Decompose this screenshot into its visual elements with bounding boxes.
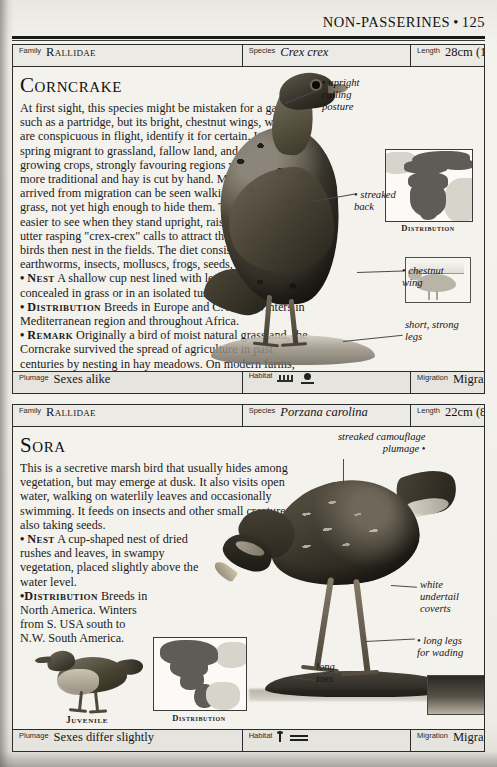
running-head-separator: • <box>453 14 459 30</box>
species-entry-corncrake: Family Rallidae Species Crex crex Length… <box>12 44 485 392</box>
fact-keyword: Remark <box>27 328 73 342</box>
bird-eye <box>312 81 320 89</box>
thumbnail-bird-leg-a <box>428 291 430 300</box>
migration-value: Migrant <box>453 730 484 745</box>
juvenile-leg-left <box>78 691 83 711</box>
plumage-value: Sexes alike <box>54 372 111 387</box>
entry-body-corncrake: Distribution • upright calling posture •… <box>12 67 485 371</box>
distribution-map-caption-sora: Distribution <box>153 713 245 723</box>
species-entry-sora: Family Rallidae Species Porzana carolina… <box>12 404 485 750</box>
fact-keyword: Nest <box>27 271 54 285</box>
family-label: Family <box>19 46 41 55</box>
distribution-map-sora <box>153 637 247 711</box>
entry-header-band-sora: Family Rallidae Species Porzana carolina… <box>12 404 485 427</box>
species-value: Crex crex <box>280 45 328 60</box>
habitat-cell: Habitat <box>243 372 411 393</box>
running-head: NON-PASSERINES•125 <box>0 14 485 31</box>
annotation-streaked-back: • streaked back <box>354 189 396 213</box>
juvenile-caption: Juvenile <box>31 715 143 725</box>
fact-keyword: Distribution <box>27 300 101 314</box>
plumage-value: Sexes differ slightly <box>54 730 154 745</box>
field-guide-page: NON-PASSERINES•125 Family Rallidae Speci… <box>0 0 497 767</box>
habitat-icon-group <box>277 731 308 742</box>
juvenile-illustration <box>31 641 143 717</box>
species-label: Species <box>249 406 276 415</box>
habitat-icon-group <box>277 373 314 384</box>
plumage-label: Plumage <box>19 731 49 740</box>
leader-line-streaked-plumage <box>343 459 344 485</box>
annotation-white-undertail-coverts: white undertail coverts <box>420 579 459 615</box>
species-value: Porzana carolina <box>280 405 367 420</box>
running-head-rule-thin <box>12 40 485 41</box>
water-icon <box>290 732 308 741</box>
page-number: 125 <box>462 14 485 30</box>
species-cell: Species Crex crex <box>243 45 411 66</box>
running-head-rule <box>12 36 485 39</box>
fact-keyword: Nest <box>27 532 54 546</box>
migration-cell: Migration Migrant <box>411 730 484 751</box>
plumage-label: Plumage <box>19 373 49 382</box>
species-label: Species <box>249 46 276 55</box>
tree-icon <box>300 373 314 384</box>
habitat-cell: Habitat <box>243 730 411 751</box>
plumage-cell: Plumage Sexes alike <box>13 372 243 393</box>
annotation-long-toes: long toes <box>316 661 335 685</box>
map-landmass-light-se <box>444 178 473 222</box>
annotation-short-strong-legs: short, strong legs <box>405 319 459 343</box>
running-head-title: NON-PASSERINES <box>323 14 450 30</box>
map-landmass-light-se <box>206 682 240 710</box>
annotation-chestnut-wing: • chestnut wing <box>402 265 444 289</box>
migration-cell: Migration Migrant <box>411 372 484 393</box>
entry-body-sora: Juvenile Distribution streaked <box>12 427 485 729</box>
juvenile-breast <box>57 669 99 695</box>
family-cell: Family Rallidae <box>13 45 243 66</box>
fact-distribution: •Distribution Breeds in North America. W… <box>20 589 148 646</box>
length-cell: Length 22cm (8½in) <box>411 405 484 426</box>
fact-keyword: Distribution <box>24 589 98 603</box>
juvenile-foot-left <box>69 708 87 712</box>
page-bottom-shadow <box>0 751 497 767</box>
length-label: Length <box>417 46 440 55</box>
family-label: Family <box>19 406 41 415</box>
bird-leg-left <box>314 577 334 669</box>
length-label: Length <box>417 406 440 415</box>
habitat-label: Habitat <box>249 731 273 740</box>
map-range-africa-south <box>420 206 438 220</box>
family-cell: Family Rallidae <box>13 405 243 426</box>
migration-label: Migration <box>417 731 448 740</box>
juvenile-foot-right <box>89 710 107 713</box>
family-value: Rallidae <box>46 45 96 60</box>
species-cell: Species Porzana carolina <box>243 405 411 426</box>
migration-label: Migration <box>417 373 448 382</box>
fact-nest: • Nest A cup-shaped nest of dried rushes… <box>20 532 210 589</box>
reed-icon <box>277 731 283 742</box>
annotation-upright-calling-posture: • upright calling posture <box>322 77 360 113</box>
migration-value: Migrant <box>453 372 484 387</box>
entry-footer-band-corncrake: Plumage Sexes alike Habitat Migration Mi… <box>12 371 485 394</box>
distribution-map-caption-corncrake: Distribution <box>385 223 471 233</box>
species-description-sora: This is a secretive marsh bird that usua… <box>20 461 235 646</box>
length-value: 28cm (11in) <box>445 45 484 60</box>
corncrake-illustration <box>199 73 389 365</box>
distribution-map-corncrake <box>385 149 473 222</box>
bird-leg-right <box>353 579 371 675</box>
juvenile-leg-right <box>94 691 99 711</box>
map-landmass-light-ne <box>216 642 247 668</box>
grass-icon <box>277 375 293 382</box>
length-value: 22cm (8½in) <box>445 405 484 420</box>
entry-footer-band-sora: Plumage Sexes differ slightly Habitat Mi… <box>12 729 485 752</box>
plumage-cell: Plumage Sexes differ slightly <box>13 730 243 751</box>
entry-header-band-corncrake: Family Rallidae Species Crex crex Length… <box>12 44 485 67</box>
map-range-asia <box>442 158 473 170</box>
habitat-label: Habitat <box>249 372 273 380</box>
annotation-streaked-camouflage-plumage: streaked camouflage plumage • <box>338 431 426 455</box>
habitat-photo-strip <box>427 675 485 715</box>
family-value: Rallidae <box>46 405 96 420</box>
length-cell: Length 28cm (11in) <box>411 45 484 66</box>
annotation-long-legs-for-wading: • long legs for wading <box>417 635 463 659</box>
thumbnail-bird-leg-b <box>436 291 438 300</box>
